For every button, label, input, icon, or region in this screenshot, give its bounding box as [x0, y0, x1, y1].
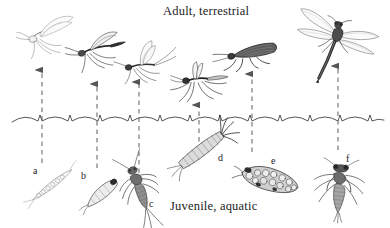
figure-illustration-layer [0, 0, 390, 228]
label-e: e [271, 155, 275, 166]
waterline [12, 115, 384, 122]
adult-caddisfly-icon [211, 42, 279, 74]
adult-midge-dark-icon [63, 30, 130, 76]
aquatic-insect-life-cycle-figure: Adult, terrestrial Juvenile, aquatic a b… [0, 0, 390, 228]
label-d: d [218, 152, 223, 163]
caption-juvenile-aquatic: Juvenile, aquatic [170, 199, 257, 214]
label-f: f [346, 153, 349, 164]
adult-dragonfly-icon [287, 8, 382, 93]
label-a: a [33, 165, 37, 176]
caption-adult-terrestrial: Adult, terrestrial [163, 4, 249, 19]
dragonfly-nymph-icon [312, 157, 366, 224]
mayfly-nymph-icon [109, 147, 174, 228]
label-c: c [149, 198, 153, 209]
midge-larva-icon [75, 177, 123, 215]
label-b: b [81, 170, 86, 181]
adult-mosquito-icon [169, 60, 230, 103]
caddisfly-case-icon [160, 111, 245, 187]
transition-arrows [42, 66, 338, 190]
caddisfly-pupa-icon [231, 158, 302, 198]
adult-midge-icon [14, 15, 78, 60]
adult-mayfly-icon [112, 38, 179, 85]
